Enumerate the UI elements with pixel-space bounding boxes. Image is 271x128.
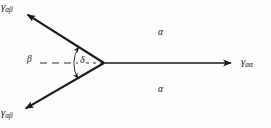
gamma-subscript-right: αα	[245, 61, 252, 69]
gamma-subscript-lower: αβ	[5, 112, 12, 120]
vector-gamma-alpha-beta-upper	[28, 15, 105, 63]
vector-gamma-alpha-beta-lower	[26, 63, 104, 108]
label-phase-alpha-top: α	[158, 28, 163, 38]
figure-root: γαβ γαβ γαα α α β δ	[0, 0, 271, 128]
label-gamma-alpha-alpha: γαα	[241, 56, 253, 69]
label-phase-alpha-bottom: α	[158, 85, 163, 95]
label-angle-delta: δ	[80, 55, 85, 65]
label-phase-beta: β	[27, 55, 32, 65]
label-gamma-alpha-beta-upper: γαβ	[1, 1, 13, 14]
figure-diagram-svg	[0, 0, 271, 128]
gamma-subscript-upper: αβ	[5, 6, 12, 14]
label-gamma-alpha-beta-lower: γαβ	[1, 107, 13, 120]
